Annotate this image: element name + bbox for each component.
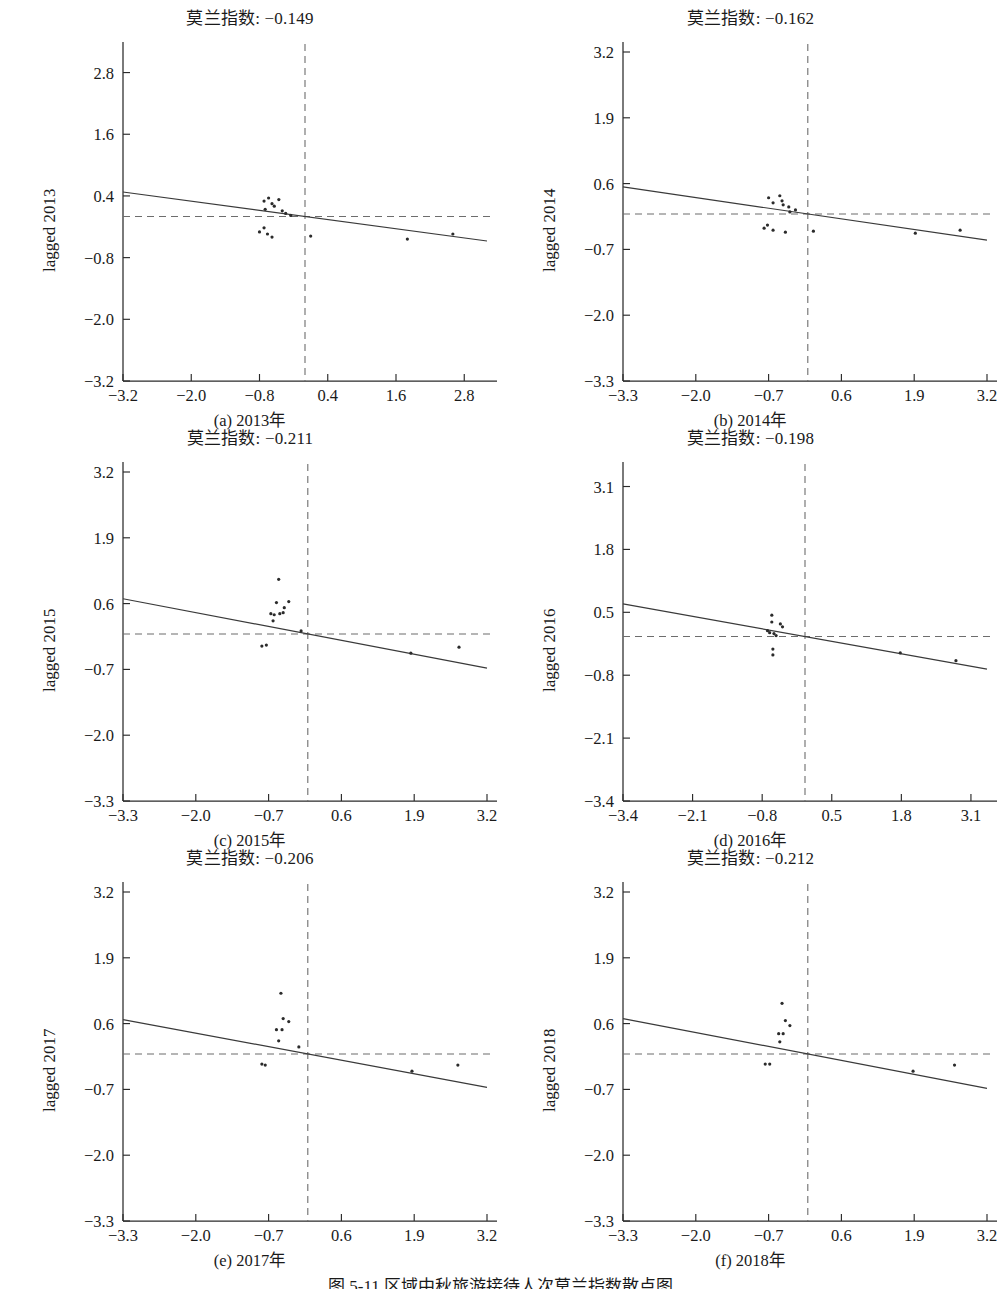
panel-grid: 莫兰指数: −0.149 −3.2−2.0−0.80.41.62.8−3.2−2… [0, 0, 1001, 1255]
scatter-point [794, 208, 797, 211]
scatter-point [774, 634, 777, 637]
scatter-point [262, 226, 265, 229]
scatter-point [771, 229, 774, 232]
x-tick-label: 3.2 [977, 1226, 998, 1245]
scatter-point [284, 212, 287, 215]
panel-f-canvas: −3.3−2.0−0.70.61.93.2−3.3−2.0−0.70.61.93… [500, 840, 1000, 1260]
scatter-point [771, 647, 774, 650]
x-tick-label: 0.6 [831, 1226, 852, 1245]
y-tick-label: 3.2 [593, 883, 614, 902]
panel-f: 莫兰指数: −0.212 −3.3−2.0−0.70.61.93.2−3.3−2… [500, 840, 1001, 1255]
scatter-point [287, 1020, 290, 1023]
scatter-point [273, 613, 276, 616]
y-tick-label: 1.6 [93, 125, 114, 144]
panel-e-caption: (e) 2017年 [0, 1247, 500, 1271]
scatter-point [782, 203, 785, 206]
x-tick-label: −3.3 [108, 1226, 138, 1245]
panel-b-y-axis-label: lagged 2014 [540, 188, 560, 272]
y-tick-label: 1.9 [93, 529, 114, 548]
y-tick-label: −2.0 [84, 310, 114, 329]
scatter-point [270, 235, 273, 238]
x-tick-label: −3.3 [608, 386, 638, 405]
panel-a-y-axis-label: lagged 2013 [40, 188, 60, 272]
x-tick-label: −3.3 [608, 1226, 638, 1245]
x-tick-label: 0.6 [331, 806, 352, 825]
x-tick-label: −2.0 [681, 386, 711, 405]
x-tick-label: 1.9 [404, 1226, 425, 1245]
scatter-point [780, 199, 783, 202]
scatter-point [784, 231, 787, 234]
y-tick-label: −0.7 [584, 1080, 614, 1099]
panel-e-y-axis-label: lagged 2017 [40, 1028, 60, 1112]
panel-e-canvas: −3.3−2.0−0.70.61.93.2−3.3−2.0−0.70.61.93… [0, 840, 500, 1260]
scatter-point [770, 620, 773, 623]
scatter-point [278, 612, 281, 615]
scatter-point [771, 653, 774, 656]
scatter-point [289, 214, 292, 217]
panel-b-canvas: −3.3−2.0−0.70.61.93.2−3.3−2.0−0.70.61.93… [500, 0, 1000, 420]
y-tick-label: 0.6 [93, 595, 114, 614]
x-tick-label: 0.6 [331, 1226, 352, 1245]
scatter-point [269, 612, 272, 615]
x-tick-label: −0.7 [754, 386, 784, 405]
scatter-point [265, 644, 268, 647]
scatter-point [771, 201, 774, 204]
scatter-point [766, 224, 769, 227]
scatter-point [260, 645, 263, 648]
x-tick-label: −0.7 [254, 806, 284, 825]
x-tick-label: −3.2 [108, 386, 138, 405]
scatter-point [781, 625, 784, 628]
y-tick-label: −2.0 [84, 1146, 114, 1165]
x-tick-label: −0.7 [754, 1226, 784, 1245]
y-tick-label: −2.0 [584, 306, 614, 325]
scatter-point [266, 232, 269, 235]
scatter-point [954, 659, 957, 662]
y-tick-label: −2.1 [584, 729, 614, 748]
y-tick-label: 0.6 [593, 175, 614, 194]
x-tick-label: 1.9 [404, 806, 425, 825]
y-tick-label: 1.9 [593, 949, 614, 968]
scatter-point [264, 1064, 267, 1067]
y-tick-label: 3.2 [93, 463, 114, 482]
scatter-point [911, 1070, 914, 1073]
scatter-point [778, 1040, 781, 1043]
x-tick-label: −2.0 [176, 386, 206, 405]
x-tick-label: 2.8 [454, 386, 475, 405]
scatter-point [780, 1002, 783, 1005]
scatter-point [271, 619, 274, 622]
x-tick-label: −0.8 [245, 386, 275, 405]
y-tick-label: 3.2 [93, 883, 114, 902]
scatter-point [283, 606, 286, 609]
y-tick-label: 1.8 [593, 540, 614, 559]
x-tick-label: −2.0 [181, 1226, 211, 1245]
panel-f-caption: (f) 2018年 [500, 1247, 1001, 1271]
scatter-point [280, 1028, 283, 1031]
scatter-point [299, 629, 302, 632]
scatter-point [959, 229, 962, 232]
scatter-point [277, 1039, 280, 1042]
panel-d-y-axis-label: lagged 2016 [540, 608, 560, 692]
scatter-point [282, 611, 285, 614]
scatter-point [410, 1070, 413, 1073]
panel-d: 莫兰指数: −0.198 −3.4−2.1−0.80.51.83.1−3.4−2… [500, 420, 1001, 840]
y-tick-label: −0.8 [584, 666, 614, 685]
scatter-point [287, 600, 290, 603]
moran-scatter-figure: 莫兰指数: −0.149 −3.2−2.0−0.80.41.62.8−3.2−2… [0, 0, 1001, 1289]
scatter-point [277, 198, 280, 201]
y-tick-label: −0.8 [84, 249, 114, 268]
scatter-point [457, 646, 460, 649]
scatter-point [899, 651, 902, 654]
x-tick-label: 1.6 [386, 386, 407, 405]
y-tick-label: −0.7 [84, 1080, 114, 1099]
scatter-point [763, 227, 766, 230]
panel-a: 莫兰指数: −0.149 −3.2−2.0−0.80.41.62.8−3.2−2… [0, 0, 500, 420]
scatter-point [409, 652, 412, 655]
scatter-point [784, 1019, 787, 1022]
scatter-point [279, 992, 282, 995]
panel-c-y-axis-label: lagged 2015 [40, 608, 60, 692]
scatter-point [281, 209, 284, 212]
scatter-point [768, 631, 771, 634]
scatter-point [812, 230, 815, 233]
scatter-point [767, 196, 770, 199]
scatter-point [782, 1032, 785, 1035]
